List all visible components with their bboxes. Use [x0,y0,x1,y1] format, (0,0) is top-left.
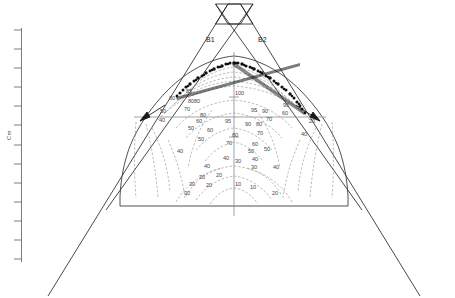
isodose-label: 70 [257,130,263,136]
isodose-label: 20 [309,118,315,124]
isodose-label: 50 [188,125,194,131]
isodose-label: 95 [283,102,289,108]
isodose-label: 90 [245,121,251,127]
isodose-label: 85 [186,88,192,94]
isodose-label: 90 [262,108,268,114]
isodose-label: 95 [225,118,231,124]
isodose-label: 40 [177,148,183,154]
isodose-label: 20 [272,190,278,196]
isodose-label: 80 [169,95,175,101]
isodose-label: 60 [282,110,288,116]
beam-label-b2: B2 [258,36,267,43]
isodose-label: 50 [264,146,270,152]
isodose-label: 40 [301,131,307,137]
isodose-label: 30 [251,164,257,170]
axis-caption: Cm [6,130,12,140]
beam-label-b1: B1 [206,36,215,43]
isodose-label: 40 [273,164,279,170]
beam-head-outlines [216,4,254,24]
isodose-label: 100 [235,90,244,96]
isodose-label: 10 [250,184,256,190]
isodose-label: 30 [199,174,205,180]
isodose-label: 70 [184,106,190,112]
isodose-label: 60 [252,141,258,147]
isodose-label: 30 [184,190,190,196]
isodose-label: 10 [235,181,241,187]
isodose-label: 60 [196,118,202,124]
isodose-label: 70 [266,116,272,122]
isodose-label: 50 [198,136,204,142]
isodose-label: 50 [248,148,254,154]
isodose-label: 70 [226,140,232,146]
isodose-label: 20 [216,172,222,178]
isodose-label: 40 [252,156,258,162]
isodose-plot-canvas [0,0,455,298]
isodose-label: 40 [204,163,210,169]
isodose-label: 50 [160,108,166,114]
reference-axes [134,52,326,216]
isodose-label: 40 [223,155,229,161]
isodose-label: 20 [206,182,212,188]
vertical-scale-axis [14,28,22,262]
isodose-figure: B1 B2 Cm 8580808050701009560809590704060… [0,0,455,298]
isodose-label: 80 [256,121,262,127]
isodose-label: 8080 [188,98,200,104]
isodose-label: 30 [189,181,195,187]
isodose-label: 30 [235,158,241,164]
isodose-label: 80 [232,132,238,138]
isodose-label: 60 [207,127,213,133]
isodose-label: 40 [159,117,165,123]
isodose-label: 95 [251,107,257,113]
